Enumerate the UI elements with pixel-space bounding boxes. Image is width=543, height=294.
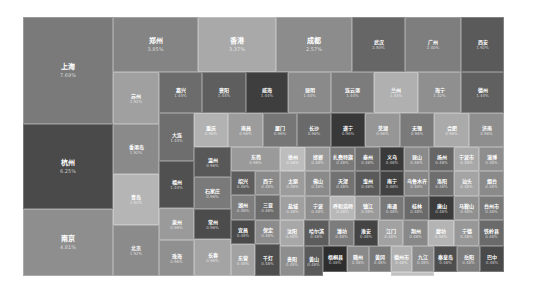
treemap-tile[interactable]: 黄冈0.48% <box>369 246 391 272</box>
treemap-tile[interactable]: 西安1.92% <box>461 17 504 72</box>
treemap-tile[interactable]: 徐州0.48% <box>280 147 305 171</box>
treemap-tile[interactable]: 广州2.40% <box>405 17 461 72</box>
treemap-tile[interactable]: 珠海0.96% <box>159 240 194 276</box>
treemap-tile[interactable]: 石家庄0.96% <box>194 177 231 209</box>
treemap-tile[interactable]: 汕头0.48% <box>454 171 479 196</box>
treemap-tile[interactable]: 荆州0.48% <box>403 220 428 246</box>
treemap-tile[interactable]: 九江0.48% <box>412 246 434 272</box>
treemap-tile[interactable]: 唐山0.48% <box>429 196 454 220</box>
treemap-tile[interactable]: 哈尔滨0.48% <box>304 220 329 246</box>
treemap-tile[interactable]: 福州1.44% <box>159 161 194 208</box>
treemap-tile[interactable]: 淮安0.48% <box>354 220 378 246</box>
treemap-tile[interactable]: 天津0.48% <box>330 171 355 196</box>
treemap-tile[interactable]: 合肥0.96% <box>434 113 469 147</box>
treemap-tile[interactable]: 武汉2.50% <box>352 17 405 72</box>
treemap-tile[interactable]: 济南0.96% <box>469 113 504 147</box>
treemap-tile[interactable]: 芜湖0.96% <box>365 113 400 147</box>
treemap-tile[interactable]: 遂宁0.96% <box>331 113 365 147</box>
treemap-tile[interactable]: 烟台0.48% <box>479 171 504 196</box>
treemap-tile[interactable]: 三亚0.48% <box>255 195 280 220</box>
treemap-tile[interactable]: 青岛1.92% <box>113 174 159 225</box>
tile-percentage: 0.48% <box>286 262 299 267</box>
tile-percentage: 1.44% <box>476 93 489 98</box>
treemap-tile[interactable]: 呼和浩特0.48% <box>330 196 355 220</box>
treemap-tile[interactable]: 宁德0.48% <box>454 220 479 246</box>
treemap-tile[interactable]: 义乌0.48% <box>380 147 404 171</box>
treemap-tile[interactable]: 东莞0.96% <box>231 147 280 171</box>
treemap-tile[interactable]: 连云港1.44% <box>331 72 374 113</box>
treemap-tile[interactable]: 威海1.44% <box>246 72 288 113</box>
treemap-tile[interactable]: 桂林0.48% <box>404 196 429 220</box>
treemap-tile[interactable]: 盐城0.48% <box>280 196 305 220</box>
treemap-tile[interactable]: 东营0.48% <box>231 244 255 276</box>
treemap-tile[interactable]: 昆明1.44% <box>288 72 331 113</box>
treemap-tile[interactable]: 南昌0.96% <box>228 113 263 147</box>
treemap-tile[interactable]: 长春0.96% <box>194 239 231 276</box>
treemap-tile[interactable]: 香港岛1.92% <box>113 124 159 174</box>
treemap-tile[interactable]: 湖州0.48% <box>231 195 255 220</box>
treemap-tile[interactable]: 兰州1.44% <box>374 72 418 113</box>
treemap-tile[interactable]: 惠州0.48% <box>355 171 380 196</box>
treemap-tile[interactable]: 泉州0.96% <box>159 208 194 240</box>
treemap-tile[interactable]: 邯郸0.48% <box>305 147 330 171</box>
treemap-tile[interactable]: 海宁1.32% <box>418 72 461 113</box>
treemap-tile[interactable]: 马鞍山0.48% <box>454 196 479 220</box>
treemap-tile[interactable]: 南京4.81% <box>23 209 113 276</box>
tile-percentage: 6.25% <box>60 168 76 175</box>
treemap-tile[interactable]: 保定0.48% <box>255 220 280 244</box>
treemap-tile[interactable]: 扬州0.48% <box>429 147 454 171</box>
treemap-tile[interactable]: 千灯0.48% <box>255 244 280 276</box>
treemap-tile[interactable]: 宜昌0.48% <box>231 220 255 244</box>
treemap-tile[interactable]: 镇江0.48% <box>355 196 380 220</box>
treemap-tile[interactable]: 香港3.37% <box>198 17 276 72</box>
treemap-tile[interactable]: 扎赉特旗0.48% <box>330 147 355 171</box>
treemap-tile[interactable]: 潍坊0.48% <box>329 220 354 246</box>
tile-percentage: 1.44% <box>170 185 183 190</box>
treemap-tile[interactable]: 北京1.92% <box>113 225 159 276</box>
treemap-tile[interactable]: 沈阳0.48% <box>280 220 304 246</box>
tile-percentage: 0.96% <box>170 259 183 264</box>
treemap-tile[interactable]: 西宁0.48% <box>255 171 280 195</box>
treemap-tile[interactable]: 随州0.48% <box>347 246 369 272</box>
treemap-tile[interactable]: 成都2.57% <box>276 17 352 72</box>
treemap-tile[interactable]: 常州0.96% <box>194 209 231 239</box>
treemap-tile[interactable]: 郑州3.85% <box>113 17 198 72</box>
treemap-tile[interactable]: 巴中0.48% <box>480 246 504 272</box>
treemap-tile[interactable]: 江门0.48% <box>378 220 403 246</box>
treemap-tile[interactable]: 岳阳0.48% <box>457 246 480 272</box>
treemap-tile[interactable]: 台州市0.48% <box>479 196 504 220</box>
treemap-tile[interactable]: 铁岭县0.48% <box>479 220 504 246</box>
treemap-tile[interactable]: 重庆0.96% <box>194 113 228 147</box>
treemap-tile[interactable]: 大连1.44% <box>159 113 194 161</box>
treemap-tile[interactable]: 梧桐县0.48% <box>323 246 347 272</box>
treemap-tile[interactable]: 廊坊0.48% <box>428 220 454 246</box>
treemap-tile[interactable]: 嘉兴1.44% <box>159 72 202 113</box>
treemap-tile[interactable]: 宁波0.48% <box>305 196 330 220</box>
treemap-tile[interactable]: 太原0.48% <box>280 171 305 196</box>
treemap-tile[interactable]: 南宁0.48% <box>380 171 404 196</box>
treemap-tile[interactable]: 德州市0.48% <box>391 246 412 272</box>
treemap-tile[interactable]: 无锡0.96% <box>400 113 434 147</box>
tile-percentage: 0.48% <box>237 208 250 213</box>
treemap-tile[interactable]: 宁波市0.48% <box>454 147 479 171</box>
treemap-tile[interactable]: 淄博0.48% <box>479 147 504 171</box>
treemap-tile[interactable]: 长沙0.96% <box>297 113 331 147</box>
treemap-tile[interactable]: 贵阳0.48% <box>280 246 304 276</box>
treemap-tile[interactable]: 秦皇岛0.48% <box>434 246 457 272</box>
treemap-tile[interactable]: 襄阳1.44% <box>202 72 246 113</box>
treemap-tile[interactable]: 温州0.96% <box>194 147 231 177</box>
treemap-tile[interactable]: 上海7.69% <box>23 17 113 124</box>
treemap-tile[interactable]: 乌鲁木齐0.48% <box>404 171 429 196</box>
treemap-tile[interactable]: 佛山0.48% <box>305 171 330 196</box>
treemap-tile[interactable]: 德州1.44% <box>461 72 504 113</box>
treemap-tile[interactable]: 南通0.48% <box>380 196 404 220</box>
treemap-tile[interactable]: 洛阳0.48% <box>429 171 454 196</box>
treemap-tile[interactable]: 杭州6.25% <box>23 124 113 209</box>
treemap-tile[interactable]: 泰州0.48% <box>355 147 380 171</box>
treemap-tile[interactable]: 黄山0.48% <box>304 246 323 276</box>
treemap-tile[interactable]: 昆山0.48% <box>404 147 429 171</box>
treemap-tile[interactable]: 苏州1.92% <box>113 72 159 124</box>
treemap-tile[interactable] <box>391 272 434 276</box>
treemap-tile[interactable]: 厦门0.96% <box>263 113 297 147</box>
treemap-tile[interactable]: 绍兴0.48% <box>231 171 255 195</box>
